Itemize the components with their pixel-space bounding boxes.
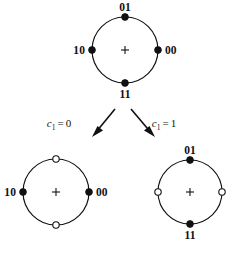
- node-label-left-left: 10: [4, 186, 16, 198]
- node-left-left[interactable]: [20, 189, 27, 196]
- arrow-label-right-operator: =: [162, 117, 168, 129]
- constellation-diagram: 01 00 11 10 c1=0 c1=1: [0, 0, 241, 254]
- constellation-subset-left: 00 10: [4, 156, 108, 228]
- arrow-label-left-subscript: 1: [52, 123, 56, 132]
- node-label-parent-top: 01: [119, 1, 131, 13]
- node-left-top[interactable]: [53, 156, 59, 162]
- node-right-top[interactable]: [187, 157, 194, 164]
- node-label-parent-bottom: 11: [119, 88, 130, 100]
- center-cross-left: [52, 188, 60, 196]
- center-cross-right: [186, 188, 194, 196]
- constellation-parent: 01 00 11 10: [73, 1, 177, 100]
- node-parent-right[interactable]: [155, 47, 162, 54]
- node-label-left-right: 00: [96, 186, 108, 198]
- arrow-label-right: c1=1: [152, 117, 176, 132]
- arrow-label-right-value: 1: [171, 117, 177, 129]
- node-label-right-bottom: 11: [184, 229, 195, 241]
- node-label-parent-left: 10: [73, 44, 85, 56]
- arrow-label-right-subscript: 1: [157, 123, 161, 132]
- node-right-left[interactable]: [155, 189, 161, 195]
- node-right-bottom[interactable]: [187, 221, 194, 228]
- node-parent-top[interactable]: [122, 14, 129, 21]
- node-label-right-top: 01: [184, 144, 196, 156]
- arrow-label-left-operator: =: [57, 117, 63, 129]
- node-left-right[interactable]: [86, 189, 93, 196]
- arrow-label-left-value: 0: [66, 117, 72, 129]
- node-right-right[interactable]: [219, 189, 225, 195]
- constellation-subset-right: 01 11: [155, 144, 225, 241]
- node-parent-left[interactable]: [89, 47, 96, 54]
- node-parent-bottom[interactable]: [122, 80, 129, 87]
- branch-arrow-left: [92, 109, 115, 137]
- arrow-left-head: [92, 126, 103, 137]
- node-left-bottom[interactable]: [53, 222, 59, 228]
- node-label-parent-right: 00: [165, 44, 177, 56]
- figure-root: 01 00 11 10 c1=0 c1=1: [0, 0, 241, 254]
- arrow-label-left: c1=0: [47, 117, 72, 132]
- center-cross-parent: [121, 46, 129, 54]
